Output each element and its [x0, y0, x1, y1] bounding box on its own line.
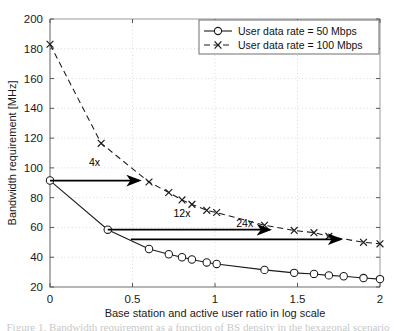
- annotation-label: 4x: [89, 156, 101, 168]
- y-axis-title: Bandwidth requirement [MHz]: [6, 81, 18, 226]
- y-tick-labels: 20406080100120140160180200: [24, 13, 43, 293]
- data-point-circle: [291, 269, 298, 276]
- x-tick-label: 1.5: [290, 293, 306, 305]
- data-point-circle: [360, 274, 367, 281]
- x-axis-title: Base station and active user ratio in lo…: [105, 307, 326, 319]
- x-tick-labels: 00.511.52: [47, 293, 383, 305]
- legend-label-100mbps: User data rate = 100 Mbps: [238, 39, 363, 51]
- data-point-circle: [188, 256, 195, 263]
- legend[interactable]: User data rate = 50 Mbps User data rate …: [199, 20, 379, 54]
- y-tick-label: 20: [30, 281, 43, 293]
- y-tick-label: 60: [30, 221, 43, 233]
- cropped-caption: Figure 1. Bandwidth requirement as a fun…: [0, 322, 396, 331]
- data-point-circle: [178, 254, 185, 261]
- y-tick-label: 140: [24, 102, 43, 114]
- annotation-label: 12x: [174, 207, 192, 219]
- y-tick-label: 180: [24, 43, 43, 55]
- y-tick-label: 200: [24, 13, 43, 25]
- annotation-label: 24x: [236, 217, 254, 229]
- circle-marker-icon: [214, 27, 221, 34]
- data-point-circle: [325, 272, 332, 279]
- data-point-circle: [145, 245, 152, 252]
- figure-container: 20406080100120140160180200 00.511.52 4x1…: [0, 0, 396, 331]
- x-tick-label: 0.5: [125, 293, 141, 305]
- x-tick-label: 1: [212, 293, 218, 305]
- x-tick-label: 0: [47, 293, 53, 305]
- chart-svg: 20406080100120140160180200 00.511.52 4x1…: [0, 0, 396, 331]
- data-point-circle: [310, 270, 317, 277]
- y-tick-label: 40: [30, 251, 43, 263]
- x-tick-label: 2: [377, 293, 383, 305]
- data-point-circle: [165, 251, 172, 258]
- y-tick-label: 160: [24, 73, 43, 85]
- y-tick-label: 80: [30, 192, 43, 204]
- data-point-circle: [213, 260, 220, 267]
- y-tick-label: 100: [24, 162, 43, 174]
- legend-label-50mbps: User data rate = 50 Mbps: [238, 25, 357, 37]
- data-point-circle: [203, 259, 210, 266]
- data-point-circle: [376, 275, 383, 282]
- data-point-circle: [340, 273, 347, 280]
- y-tick-label: 120: [24, 132, 43, 144]
- data-point-circle: [261, 266, 268, 273]
